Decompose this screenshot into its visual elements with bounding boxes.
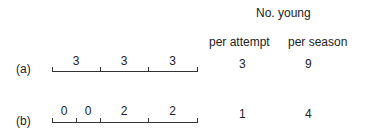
segment-value: 3 xyxy=(52,54,100,68)
segment-value: 3 xyxy=(100,54,148,68)
row-a-label: (a) xyxy=(16,62,31,76)
row-b-per-season: 4 xyxy=(305,107,312,121)
segment-value: 0 xyxy=(52,104,76,118)
row-b-per-attempt: 1 xyxy=(239,107,246,121)
row-b-label: (b) xyxy=(16,114,31,128)
segment-value: 0 xyxy=(76,104,100,118)
column-per-season: per season xyxy=(288,35,347,49)
row-a-per-attempt: 3 xyxy=(239,57,246,71)
segment-value: 3 xyxy=(148,54,197,68)
row-a-per-season: 9 xyxy=(305,57,312,71)
segment-value: 2 xyxy=(100,104,148,118)
column-per-attempt: per attempt xyxy=(209,35,270,49)
segment-value: 2 xyxy=(148,104,197,118)
header-title: No. young xyxy=(256,6,311,20)
